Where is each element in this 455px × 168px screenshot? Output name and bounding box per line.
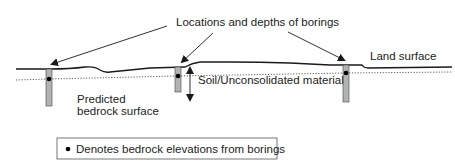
callout-arrow-3 bbox=[288, 32, 344, 60]
bedrock-diagram: Locations and depths of borings Land sur… bbox=[0, 0, 455, 168]
bedrock-point bbox=[176, 74, 181, 79]
arrowhead-up-icon bbox=[186, 66, 194, 74]
land-surface-label: Land surface bbox=[370, 50, 437, 62]
legend-text: Denotes bedrock elevations from borings bbox=[76, 143, 285, 155]
callout-arrow-1 bbox=[52, 26, 167, 64]
boring-1 bbox=[46, 69, 52, 106]
bedrock-point bbox=[47, 77, 52, 82]
soil-label: Soil/Unconsolidated material bbox=[198, 74, 344, 86]
bedrock-label-line2: bedrock surface bbox=[77, 105, 159, 117]
callout-arrow-2 bbox=[182, 33, 213, 62]
legend: Denotes bedrock elevations from borings bbox=[57, 138, 285, 159]
arrowhead-down-icon bbox=[186, 94, 194, 102]
land-surface-line bbox=[16, 62, 452, 72]
bedrock-point bbox=[344, 71, 349, 76]
legend-dot-icon bbox=[66, 147, 71, 152]
bedrock-label-line1: Predicted bbox=[77, 93, 126, 105]
boring-3 bbox=[343, 65, 349, 102]
borings-callout-label: Locations and depths of borings bbox=[176, 16, 339, 28]
boring-2 bbox=[175, 67, 181, 92]
